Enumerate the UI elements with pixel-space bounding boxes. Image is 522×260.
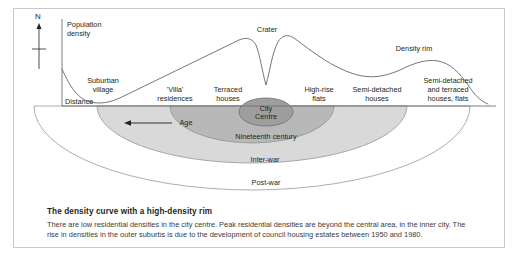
diagram-area: N Population density Distance Suburban v… [14, 9, 504, 197]
post-war-label: Post-war [226, 179, 306, 187]
age-arrow-label: Age [174, 119, 198, 127]
caption-block: The density curve with a high-density ri… [47, 207, 477, 240]
north-label: N [35, 12, 41, 21]
density-rim-label: Density rim [382, 45, 446, 53]
high-rise-flats-label-line2: flats [291, 95, 347, 103]
nineteenth-century-label: Nineteenth century [213, 133, 319, 141]
inter-war-label: Inter-war [225, 156, 305, 164]
semi-detached-terraced-label-line3: houses, flats [412, 95, 484, 103]
north-arrow-head-icon [37, 23, 42, 29]
figure-panel: N Population density Distance Suburban v… [13, 8, 505, 248]
terraced-houses-label-line2: houses [199, 95, 257, 103]
caption-title: The density curve with a high-density ri… [47, 207, 477, 216]
semi-detached-houses-label-line2: houses [342, 95, 412, 103]
city-centre-label-line2: Centre [246, 113, 286, 121]
y-axis-label-line2: density [67, 30, 90, 38]
crater-label: Crater [240, 26, 294, 34]
caption-body: There are low residential densities in t… [47, 220, 477, 240]
suburban-village-label-line2: village [71, 86, 135, 94]
x-axis-label: Distance [65, 98, 93, 106]
villa-residences-label-line2: residences [145, 95, 205, 103]
